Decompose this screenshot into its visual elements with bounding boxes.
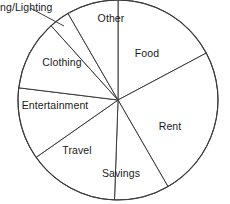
pie-slice-label-travel: Travel — [62, 145, 91, 156]
pie-slice-label-rent: Rent — [159, 121, 182, 132]
pie-slice-label-savings: Savings — [102, 168, 140, 179]
pie-chart-container: FoodRentSavingsTravelEntertainmentClothi… — [0, 0, 230, 204]
pie-slice-label-other: Other — [98, 13, 125, 24]
pie-slice-label-heating-lighting: ng/Lighting — [0, 2, 52, 13]
pie-slice-label-clothing: Clothing — [42, 57, 81, 68]
pie-slice-label-entertainment: Entertainment — [22, 100, 89, 111]
pie-slice-label-food: Food — [135, 48, 159, 59]
